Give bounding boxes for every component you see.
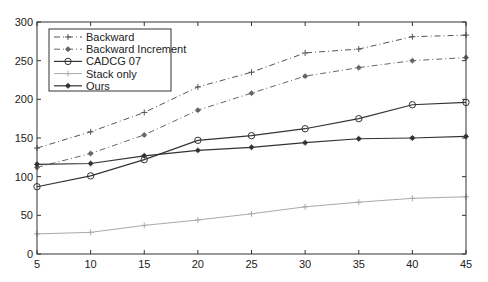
- legend: BackwardBackward IncrementCADCG 07Stack …: [49, 29, 186, 92]
- line-chart: 51015202530354045050100150200250300 Back…: [0, 0, 488, 282]
- x-tick-label: 35: [353, 258, 365, 270]
- x-tick-label: 30: [299, 258, 311, 270]
- x-tick-label: 5: [34, 258, 40, 270]
- y-tick-label: 0: [27, 248, 33, 260]
- y-tick-label: 200: [15, 93, 33, 105]
- x-tick-label: 10: [85, 258, 97, 270]
- legend-label: Stack only: [86, 68, 137, 80]
- x-tick-label: 20: [192, 258, 204, 270]
- legend-label: Ours: [86, 80, 110, 92]
- x-tick-label: 25: [245, 258, 257, 270]
- legend-label: Backward Increment: [86, 43, 186, 55]
- y-tick-label: 300: [15, 16, 33, 28]
- x-tick-label: 15: [138, 258, 150, 270]
- y-tick-label: 150: [15, 132, 33, 144]
- series-stack-only: [34, 194, 469, 237]
- y-tick-label: 100: [15, 171, 33, 183]
- y-tick-label: 50: [21, 209, 33, 221]
- x-tick-label: 45: [460, 258, 472, 270]
- y-tick-label: 250: [15, 55, 33, 67]
- legend-label: Backward: [86, 31, 134, 43]
- legend-label: CADCG 07: [86, 55, 141, 67]
- x-tick-label: 40: [406, 258, 418, 270]
- chart-canvas: 51015202530354045050100150200250300 Back…: [0, 0, 488, 282]
- series-line: [37, 136, 466, 164]
